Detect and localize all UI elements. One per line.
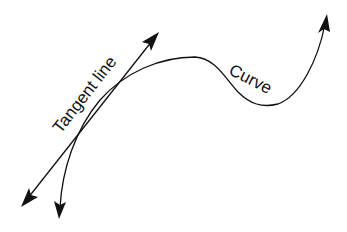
curve-label: Curve <box>226 60 275 98</box>
tangent-arrow-upper-icon <box>142 32 159 51</box>
curve <box>54 14 330 219</box>
diagram-canvas: Tangent line Curve <box>0 0 347 232</box>
tangent-arrow-lower-icon <box>21 188 38 207</box>
tangent-line <box>21 32 159 207</box>
